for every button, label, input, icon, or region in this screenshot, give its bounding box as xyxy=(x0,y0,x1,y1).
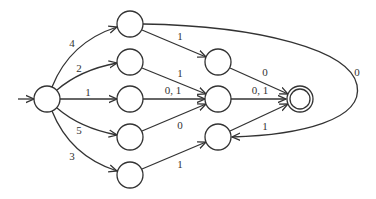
edge-s-a xyxy=(52,27,117,87)
automaton-diagram: 4 2 1 5 3 1 1 0, 1 0 1 0 0, 1 1 0 xyxy=(0,0,376,199)
label-s-e: 3 xyxy=(69,150,75,162)
state-start xyxy=(34,86,60,112)
label-a-f: 1 xyxy=(177,30,183,42)
label-h-acc: 1 xyxy=(262,120,268,132)
state-e xyxy=(117,162,143,188)
edge-s-d xyxy=(57,108,117,135)
label-a-h: 0 xyxy=(354,66,360,78)
state-a xyxy=(117,11,143,37)
edge-d-g xyxy=(142,104,206,131)
state-f xyxy=(205,49,231,75)
edge-h-acc xyxy=(230,104,288,131)
label-d-g: 0 xyxy=(177,119,183,131)
label-f-acc: 0 xyxy=(262,66,268,78)
label-s-b: 2 xyxy=(76,62,82,74)
state-d xyxy=(117,124,143,150)
state-h xyxy=(205,124,231,150)
state-g xyxy=(205,86,231,112)
label-b-g: 1 xyxy=(177,67,183,79)
state-accepting xyxy=(287,86,313,112)
label-s-d: 5 xyxy=(76,124,82,136)
label-g-acc: 0, 1 xyxy=(252,84,269,96)
edge-s-e xyxy=(52,111,117,171)
label-s-a: 4 xyxy=(69,37,75,49)
edge-a-f xyxy=(142,30,206,57)
edge-e-h xyxy=(142,142,206,169)
label-c-g: 0, 1 xyxy=(165,84,182,96)
label-e-h: 1 xyxy=(177,158,183,170)
state-b xyxy=(117,49,143,75)
label-s-c: 1 xyxy=(85,86,91,98)
state-c xyxy=(117,86,143,112)
edge-a-h xyxy=(143,24,358,137)
